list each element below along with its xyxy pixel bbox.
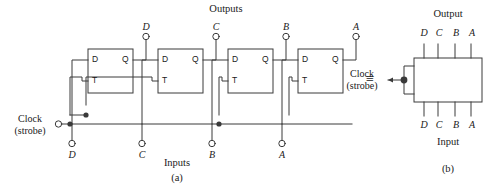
flipflop-c-q-wire (203, 40, 216, 60)
flipflop-b-t-wire (219, 77, 228, 115)
output-terminal-a-label: A (353, 22, 359, 32)
input-terminal-a-circle[interactable] (279, 140, 285, 146)
block-output-label: Output (433, 9, 462, 20)
clock-label-a-line2: (strobe) (6, 125, 54, 137)
block-input-pin-c-label: C (436, 120, 443, 130)
flipflop-b-pin-q-label: Q (262, 55, 269, 64)
flipflop-d-q-wire (133, 40, 146, 60)
flipflop-d-stage (70, 33, 149, 124)
block-input-pin-d-label: D (420, 120, 427, 130)
flipflop-c-pin-q-label: Q (192, 55, 199, 64)
input-terminal-b-circle[interactable] (209, 140, 215, 146)
block-input-label: Input (437, 137, 459, 148)
input-terminal-d-circle[interactable] (69, 140, 75, 146)
flipflop-b-q-wire (273, 40, 286, 60)
outputs-label: Outputs (209, 4, 242, 15)
block-output-pin-b-label: B (453, 28, 459, 38)
flipflop-b-stage (212, 33, 289, 124)
output-terminal-d-label: D (142, 22, 149, 32)
flipflop-a-t-wire (289, 77, 298, 115)
input-terminal-a-label: A (279, 150, 285, 160)
register-clock-dot (401, 77, 408, 84)
input-terminal-c-label: C (139, 150, 146, 160)
register-block-body (414, 58, 482, 102)
flipflop-c-pin-d-label: D (162, 55, 168, 64)
output-terminal-b-circle[interactable] (283, 33, 289, 39)
clock-label-a: Clock (strobe) (6, 113, 54, 136)
output-terminal-d-circle[interactable] (143, 33, 149, 39)
block-output-pin-c-label: C (436, 28, 443, 38)
flipflop-b-pin-d-label: D (232, 55, 238, 64)
clock-label-b-line2: (strobe) (337, 80, 387, 92)
block-output-pin-a-label: A (469, 28, 475, 38)
input-terminal-c-circle[interactable] (139, 140, 145, 146)
flipflop-d-t-wire (70, 77, 88, 115)
clock-terminal-circle[interactable] (55, 121, 61, 127)
inputs-label: Inputs (164, 158, 190, 169)
flipflop-a-pin-t-label: T (302, 76, 307, 85)
flipflop-a-d-wire (282, 60, 298, 124)
clock-label-b-line1: Clock (337, 68, 387, 80)
output-terminal-a-circle[interactable] (353, 33, 359, 39)
figure-register-diagram: Outputs Inputs (a) Clock (strobe) D C B … (0, 0, 493, 191)
flipflop-b-pin-t-label: T (232, 76, 237, 85)
register-clock-arrow (388, 78, 393, 83)
block-input-pin-a-label: A (469, 120, 475, 130)
flipflop-c-d-wire (142, 60, 158, 124)
caption-a: (a) (171, 173, 183, 184)
flipflop-a-pin-d-label: D (302, 55, 308, 64)
flipflop-b-d-wire (212, 60, 228, 124)
caption-b: (b) (442, 164, 454, 175)
flipflop-c-pin-t-label: T (162, 76, 167, 85)
diagram-canvas (0, 0, 493, 191)
flipflop-a-q-wire (343, 40, 356, 60)
output-terminal-c-label: C (213, 22, 220, 32)
output-terminal-b-label: B (283, 22, 289, 32)
block-input-pin-b-label: B (453, 120, 459, 130)
output-terminal-c-circle[interactable] (213, 33, 219, 39)
clock-junction-dot-2 (216, 121, 221, 126)
clock-label-a-line1: Clock (6, 113, 54, 125)
flipflop-c-stage (86, 33, 219, 124)
flipflop-d-pin-q-label: Q (122, 55, 129, 64)
clock-label-b: Clock (strobe) (337, 68, 387, 91)
input-terminal-d-label: D (68, 150, 75, 160)
flipflop-a-pin-q-label: Q (332, 55, 339, 64)
flipflop-d-pin-d-label: D (92, 55, 98, 64)
block-output-pin-d-label: D (420, 28, 427, 38)
input-terminal-b-label: B (209, 150, 215, 160)
flipflop-d-pin-t-label: T (92, 76, 97, 85)
